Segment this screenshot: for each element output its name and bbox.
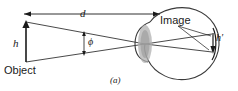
upper-ray [26,22,212,52]
object-height-label: h [13,38,19,49]
lens [138,25,152,63]
object-arrow [22,20,29,62]
image-label: Image [160,15,191,26]
distance-dimension-line [24,12,160,17]
angle-phi-label: ϕ [88,37,93,47]
lower-ray [26,34,212,62]
angle-marker [82,31,86,56]
image-height-label: h′ [216,33,223,43]
object-label: Object [4,65,36,76]
figure-caption: (a) [110,76,121,85]
optics-eye-ray-diagram: d h h′ ϕ Object Image (a) [0,0,238,91]
distance-label: d [80,8,86,19]
